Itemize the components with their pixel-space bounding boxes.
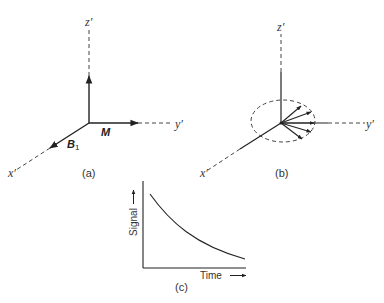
- time-label: Time: [200, 270, 222, 281]
- panel-a-caption: (a): [82, 167, 95, 179]
- x-axis-label: x′: [7, 166, 16, 180]
- signal-label: Signal: [128, 208, 139, 236]
- x-axis-label: x′: [199, 166, 208, 180]
- vector-arrow: [281, 123, 311, 132]
- z-axis-label: z′: [84, 15, 93, 29]
- panel-b: z′ y′ x′ (b): [199, 20, 374, 180]
- panel-a: z′ y′ x′ M B1 (a): [7, 15, 183, 180]
- dephasing-vectors: [281, 106, 314, 139]
- panel-c-caption: (c): [175, 281, 188, 293]
- y-axis-label: y′: [174, 117, 183, 131]
- vector-arrow: [281, 106, 301, 123]
- y-axis-label: y′: [365, 117, 374, 131]
- m-label: M: [101, 126, 111, 138]
- x-axis-dashed: [16, 148, 50, 170]
- panel-b-caption: (b): [275, 167, 288, 179]
- origin-dot: [280, 122, 283, 125]
- b1-label: B1: [67, 138, 80, 152]
- x-axis-solid: [240, 123, 281, 149]
- signal-label-group: Signal: [128, 190, 139, 236]
- vector-arrow: [281, 123, 302, 139]
- z-axis-label: z′: [276, 20, 285, 34]
- panel-c: Signal Time (c): [128, 181, 246, 293]
- decay-curve: [150, 194, 245, 259]
- x-axis-dashed: [208, 149, 240, 170]
- figure-canvas: z′ y′ x′ M B1 (a) z′ y′ x′ (b): [0, 0, 384, 303]
- vector-arrow: [281, 112, 311, 123]
